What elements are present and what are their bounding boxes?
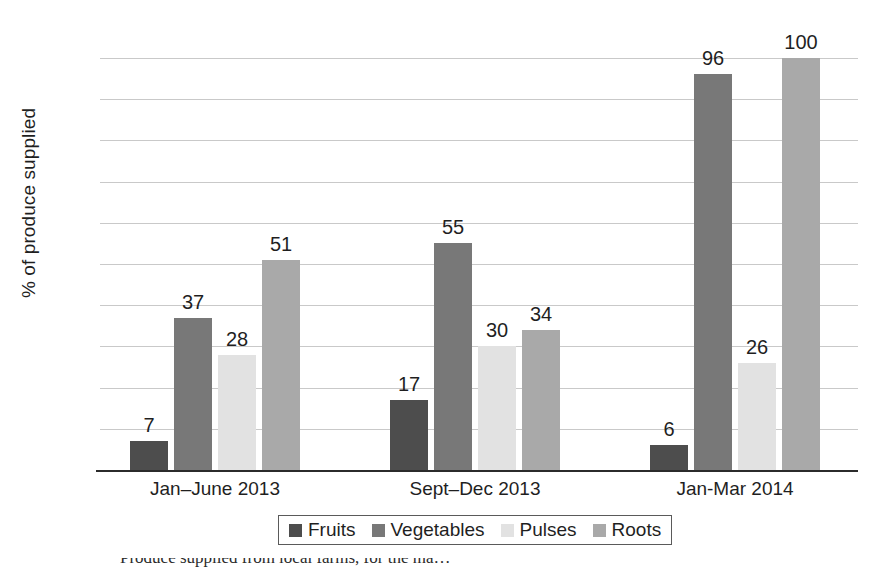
- bar-value-label: 17: [398, 373, 420, 396]
- legend-swatch-icon: [501, 524, 514, 537]
- bar-value-label: 51: [270, 233, 292, 256]
- bar-slot: 26: [738, 58, 776, 470]
- bar-slot: 6: [650, 58, 688, 470]
- bar-slot: 7: [130, 58, 168, 470]
- bar[interactable]: [478, 346, 516, 470]
- bar[interactable]: [782, 58, 820, 470]
- bar[interactable]: [434, 243, 472, 470]
- bar-slot: 37: [174, 58, 212, 470]
- legend-item-label: Vegetables: [391, 519, 485, 541]
- bar[interactable]: [390, 400, 428, 470]
- bar-slot: 96: [694, 58, 732, 470]
- legend-item-label: Roots: [612, 519, 662, 541]
- bar-value-label: 34: [530, 303, 552, 326]
- bar-group: 17553034: [390, 58, 560, 470]
- bar-value-label: 6: [663, 418, 674, 441]
- bar-value-label: 7: [143, 414, 154, 437]
- bar[interactable]: [694, 74, 732, 470]
- legend-swatch-icon: [289, 524, 302, 537]
- bar-slot: 51: [262, 58, 300, 470]
- x-axis-category-label: Jan-Mar 2014: [676, 478, 793, 500]
- legend-item-label: Pulses: [520, 519, 577, 541]
- caption-strip: Produce supplied from local farms, for t…: [0, 558, 890, 568]
- chart-legend: FruitsVegetablesPulsesRoots: [278, 515, 672, 545]
- bar-slot: 34: [522, 58, 560, 470]
- bar-chart-figure: % of produce supplied 100908070605040302…: [0, 0, 890, 568]
- bar[interactable]: [650, 445, 688, 470]
- figure-caption: Produce supplied from local farms, for t…: [120, 558, 450, 568]
- bar-slot: 17: [390, 58, 428, 470]
- plot-area: 1009080706050403020100 73728511755303469…: [100, 58, 858, 470]
- legend-swatch-icon: [593, 524, 606, 537]
- bar-value-label: 30: [486, 319, 508, 342]
- bar-value-label: 96: [702, 47, 724, 70]
- bar-groups: 73728511755303469626100: [100, 58, 858, 470]
- legend-item[interactable]: Pulses: [501, 519, 577, 541]
- legend-item-label: Fruits: [308, 519, 356, 541]
- bar-slot: 30: [478, 58, 516, 470]
- x-axis-category-label: Sept–Dec 2013: [410, 478, 541, 500]
- bar-group: 7372851: [130, 58, 300, 470]
- legend-swatch-icon: [372, 524, 385, 537]
- bar-value-label: 55: [442, 216, 464, 239]
- bar-value-label: 37: [182, 291, 204, 314]
- legend-item[interactable]: Fruits: [289, 519, 356, 541]
- bar-value-label: 28: [226, 328, 248, 351]
- x-axis-line: [96, 470, 858, 472]
- bar-group: 69626100: [650, 58, 820, 470]
- legend-item[interactable]: Roots: [593, 519, 662, 541]
- bar-value-label: 100: [784, 31, 817, 54]
- bar-slot: 100: [782, 58, 820, 470]
- x-axis-category-label: Jan–June 2013: [150, 478, 280, 500]
- bar[interactable]: [738, 363, 776, 470]
- y-axis-title: % of produce supplied: [18, 88, 40, 318]
- bar-slot: 55: [434, 58, 472, 470]
- bar[interactable]: [218, 355, 256, 470]
- bar-slot: 28: [218, 58, 256, 470]
- bar[interactable]: [262, 260, 300, 470]
- bar-value-label: 26: [746, 336, 768, 359]
- legend-item[interactable]: Vegetables: [372, 519, 485, 541]
- bar[interactable]: [130, 441, 168, 470]
- bar[interactable]: [522, 330, 560, 470]
- bar[interactable]: [174, 318, 212, 470]
